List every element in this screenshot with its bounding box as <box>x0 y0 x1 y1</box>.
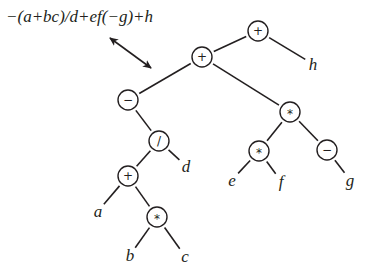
operator-node: + <box>192 47 212 67</box>
variable-label: b <box>126 246 135 265</box>
variable-label: f <box>279 172 286 191</box>
variable-label: g <box>346 171 355 190</box>
leaf-node: g <box>346 171 355 190</box>
operator-node: * <box>147 207 167 227</box>
tree-edge <box>104 186 120 204</box>
leaf-node: e <box>228 171 236 190</box>
operator-label: + <box>253 24 263 38</box>
tree-edge <box>165 228 180 249</box>
tree-edge <box>136 187 150 207</box>
operator-node: / <box>149 131 169 151</box>
operator-label: − <box>123 93 133 107</box>
variable-label: e <box>228 171 236 190</box>
variable-label: c <box>181 247 189 266</box>
tree-edge <box>213 64 279 105</box>
expression-label: −(a+bc)/d+ef(−g)+h <box>6 7 153 26</box>
operator-node: − <box>317 140 337 160</box>
tree-edge <box>169 150 180 160</box>
expression-tree-diagram: −(a+bc)/d+ef(−g)+h ++h−*/d*−efg+a*bc <box>0 0 366 269</box>
operator-node: * <box>249 141 269 161</box>
operator-node: * <box>280 102 300 122</box>
variable-label: d <box>182 157 191 176</box>
tree-edge <box>139 64 191 94</box>
tree-edge <box>238 161 250 174</box>
operator-label: − <box>322 143 332 157</box>
tree-edge <box>136 110 151 130</box>
leaf-node: d <box>182 157 191 176</box>
leaf-node: f <box>279 172 286 191</box>
tree-edge <box>335 160 345 173</box>
operator-label: + <box>197 50 207 64</box>
tree-edge <box>214 36 246 51</box>
leaf-node: a <box>94 202 103 221</box>
tree-edge <box>299 121 318 140</box>
operator-label: * <box>287 107 293 121</box>
tree-edge <box>137 151 151 167</box>
operator-label: + <box>123 169 133 183</box>
leaf-node: c <box>181 247 189 266</box>
tree-edge <box>267 161 276 173</box>
nodes-layer: ++h−*/d*−efg+a*bc <box>94 21 355 266</box>
operator-node: + <box>118 166 138 186</box>
variable-label: a <box>94 202 103 221</box>
tree-edge <box>269 38 305 60</box>
operator-label: * <box>154 212 160 226</box>
tree-edge <box>135 228 149 248</box>
operator-node: + <box>248 21 268 41</box>
operator-label: * <box>256 146 262 160</box>
leaf-node: b <box>126 246 135 265</box>
operator-node: − <box>118 90 138 110</box>
double-arrow-icon <box>110 38 151 68</box>
tree-edge <box>267 122 282 141</box>
variable-label: h <box>309 55 318 74</box>
leaf-node: h <box>309 55 318 74</box>
